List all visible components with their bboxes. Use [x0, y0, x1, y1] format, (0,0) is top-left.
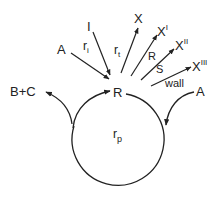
reaction-cycle-diagram: R A ri I rt X XI XII XIII R S wall B+C A…	[0, 0, 222, 198]
arrow-to-X	[121, 28, 138, 73]
label-XIII: XIII	[192, 58, 207, 74]
label-X: X	[134, 11, 143, 26]
label-BC: B+C	[10, 84, 36, 99]
label-XII: XII	[175, 37, 188, 53]
cycle-arrow-to-R	[73, 91, 110, 128]
label-path-S: S	[156, 63, 163, 75]
label-path-R: R	[148, 50, 156, 62]
label-XI: XI	[157, 23, 168, 39]
label-A-left: A	[57, 42, 66, 57]
arrow-I-initiation	[93, 32, 110, 75]
exit-arrow-BC	[46, 92, 72, 124]
center-species-R: R	[113, 85, 122, 100]
label-A-right: A	[196, 84, 205, 99]
label-I: I	[87, 19, 91, 34]
label-path-wall: wall	[164, 77, 184, 89]
label-rp: rp	[113, 127, 122, 144]
label-rt: rt	[114, 43, 121, 59]
label-ri: ri	[83, 39, 89, 55]
entry-arrow-A-right	[166, 92, 194, 125]
